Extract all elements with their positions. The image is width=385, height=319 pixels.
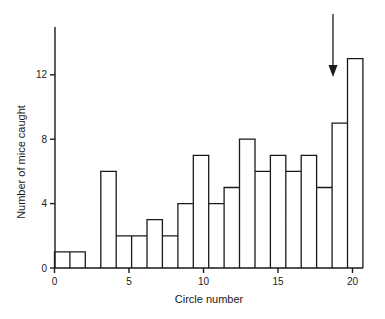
y-axis-label: Number of mice caught — [15, 105, 27, 219]
y-tick-label: 4 — [41, 198, 47, 209]
x-tick-label: 5 — [126, 276, 132, 287]
x-tick-label: 15 — [272, 276, 284, 287]
y-axis: 04812 — [36, 27, 55, 274]
histogram-bars — [55, 59, 363, 268]
x-tick-label: 10 — [198, 276, 210, 287]
arrow-down-icon — [329, 65, 338, 77]
y-tick-label: 0 — [41, 263, 47, 274]
x-axis-label: Circle number — [175, 293, 244, 305]
arrow-annotation — [329, 14, 338, 77]
x-tick-label: 20 — [347, 276, 359, 287]
x-tick-label: 0 — [52, 276, 58, 287]
x-ticks: 05101520 — [52, 268, 359, 287]
x-axis: 05101520 — [52, 268, 363, 287]
histogram-chart: 04812 05101520 Circle number Number of m… — [0, 0, 385, 319]
y-tick-label: 12 — [36, 69, 48, 80]
y-tick-label: 8 — [41, 134, 47, 145]
y-ticks: 04812 — [36, 69, 55, 273]
